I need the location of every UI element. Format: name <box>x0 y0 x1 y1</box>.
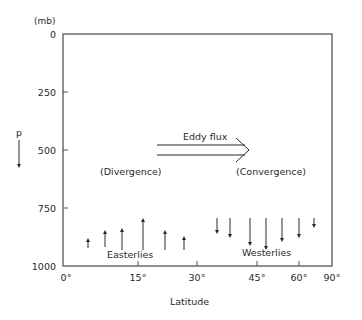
x-tick-label: 90° <box>324 272 341 283</box>
x-tick-label: 45° <box>249 272 266 283</box>
y-tick-label: 750 <box>38 203 56 214</box>
x-tick-label: 15° <box>130 272 147 283</box>
convergence-label: (Convergence) <box>236 166 306 177</box>
x-tick-label: 30° <box>189 272 206 283</box>
plot-frame <box>63 34 332 266</box>
x-tick-label: 0° <box>61 272 72 283</box>
x-axis-label: Latitude <box>170 296 209 307</box>
y-unit-label: (mb) <box>34 16 56 26</box>
y-tick-label: 0 <box>50 29 56 40</box>
eddy-flux-label: Eddy flux <box>183 131 228 142</box>
x-axis-ticks: 0°15°30°45°60°90° <box>61 261 341 283</box>
x-tick-label: 60° <box>291 272 308 283</box>
rising-motion-arrows <box>88 220 184 250</box>
y-tick-label: 500 <box>38 145 56 156</box>
y-tick-label: 250 <box>38 87 56 98</box>
pressure-symbol: p <box>16 127 22 138</box>
westerlies-label: Westerlies <box>242 247 291 258</box>
easterlies-label: Easterlies <box>107 249 153 260</box>
y-tick-label: 1000 <box>32 261 56 272</box>
eddy-flux-diagram: (mb) 02505007501000 0°15°30°45°60°90° p … <box>0 0 362 320</box>
divergence-label: (Divergence) <box>100 166 162 177</box>
sinking-motion-arrows <box>217 218 314 248</box>
